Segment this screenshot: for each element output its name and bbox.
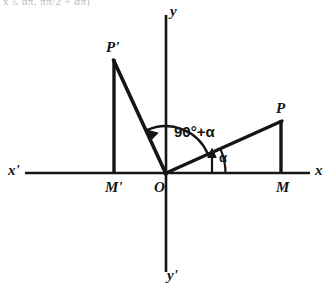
- rotation-angle-label: 90°+α: [174, 124, 215, 139]
- diagram-canvas: [0, 0, 331, 291]
- geometry-figure: x ≤ απ, ππ/2 + απ]: [0, 0, 331, 291]
- x-prime-axis-label: x': [8, 163, 20, 178]
- base-angle-label: α: [219, 151, 227, 164]
- axis-lines: [25, 15, 310, 272]
- y-axis-label: y: [170, 4, 177, 19]
- point-m-prime-label: M': [105, 180, 123, 195]
- point-p-label: P: [276, 101, 285, 116]
- triangle-omp-prime: [114, 59, 167, 174]
- y-prime-axis-label: y': [167, 268, 178, 283]
- origin-label: O: [154, 180, 165, 195]
- point-m-label: M: [276, 180, 289, 195]
- ray-op-prime: [114, 60, 167, 174]
- point-p-prime-label: P': [106, 40, 119, 55]
- x-axis-label: x: [315, 163, 323, 178]
